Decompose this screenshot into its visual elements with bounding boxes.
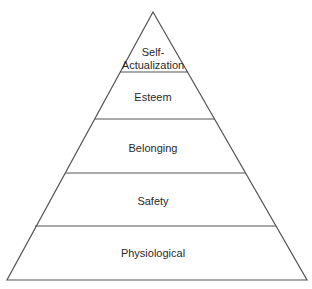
level-belonging: Belonging xyxy=(129,142,178,154)
level-self-actualization-line1: Self- xyxy=(142,46,165,58)
level-esteem: Esteem xyxy=(134,91,171,103)
level-safety: Safety xyxy=(137,195,169,207)
level-physiological: Physiological xyxy=(121,247,185,259)
pyramid-diagram: Self- Actualization Esteem Belonging Saf… xyxy=(0,0,312,289)
level-self-actualization-line2: Actualization xyxy=(122,59,184,71)
